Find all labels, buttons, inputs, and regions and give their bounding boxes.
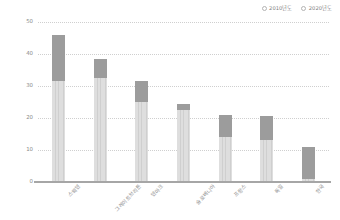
bar-slot[interactable] bbox=[163, 22, 205, 182]
bar-slot[interactable] bbox=[204, 22, 246, 182]
bar-slot[interactable] bbox=[287, 22, 329, 182]
stacked-bar[interactable] bbox=[219, 115, 232, 182]
x-axis-line bbox=[34, 181, 331, 183]
stacked-bar[interactable] bbox=[52, 35, 65, 182]
legend-label-2020: 2020년도 bbox=[309, 6, 332, 11]
bar-segment-2010[interactable] bbox=[177, 110, 190, 182]
bar-segment-2020[interactable] bbox=[260, 116, 273, 140]
bar-segment-2010[interactable] bbox=[94, 78, 107, 182]
stacked-bar[interactable] bbox=[94, 59, 107, 182]
bar-slot[interactable] bbox=[246, 22, 288, 182]
bar-segment-2020[interactable] bbox=[302, 147, 315, 179]
circle-outline-icon bbox=[301, 6, 306, 11]
bar-segment-2010[interactable] bbox=[260, 140, 273, 182]
circle-outline-icon bbox=[262, 6, 267, 11]
bar-group bbox=[38, 22, 329, 182]
plot-area: 01020304050 bbox=[38, 22, 329, 182]
stacked-bar-chart: 2010년도 2020년도 01020304050 스웨덴그레이트브리튼덴마크슬… bbox=[0, 0, 340, 220]
bar-slot[interactable] bbox=[38, 22, 80, 182]
stacked-bar[interactable] bbox=[135, 81, 148, 182]
x-axis-tick-label: 슬로베니아 bbox=[195, 184, 216, 205]
x-axis-tick-label: 프랑스 bbox=[233, 184, 247, 198]
chart-legend: 2010년도 2020년도 bbox=[262, 6, 332, 11]
bar-segment-2010[interactable] bbox=[219, 137, 232, 182]
y-axis-tick-label: 20 bbox=[26, 115, 33, 120]
bar-segment-2010[interactable] bbox=[135, 102, 148, 182]
x-axis-tick-label: 덴마크 bbox=[150, 184, 164, 198]
bar-segment-2020[interactable] bbox=[135, 81, 148, 102]
bar-slot[interactable] bbox=[80, 22, 122, 182]
y-axis-tick-label: 30 bbox=[26, 83, 33, 88]
bar-segment-2020[interactable] bbox=[219, 115, 232, 137]
x-axis-tick-label: 그레이트브리튼 bbox=[115, 184, 143, 212]
bar-segment-2010[interactable] bbox=[52, 81, 65, 182]
x-axis-tick-label: 스웨덴 bbox=[67, 184, 81, 198]
y-axis-tick-label: 0 bbox=[30, 179, 33, 184]
stacked-bar[interactable] bbox=[260, 116, 273, 182]
stacked-bar[interactable] bbox=[177, 104, 190, 182]
legend-item-2020[interactable]: 2020년도 bbox=[301, 6, 332, 11]
bar-segment-2020[interactable] bbox=[52, 35, 65, 81]
x-axis-tick-label: 독일 bbox=[274, 184, 285, 195]
y-axis-tick-label: 40 bbox=[26, 51, 33, 56]
legend-item-2010[interactable]: 2010년도 bbox=[262, 6, 293, 11]
legend-label-2010: 2010년도 bbox=[269, 6, 292, 11]
x-axis-labels: 스웨덴그레이트브리튼덴마크슬로베니아프랑스독일한국 bbox=[38, 184, 329, 220]
bar-slot[interactable] bbox=[121, 22, 163, 182]
y-axis-tick-label: 50 bbox=[26, 19, 33, 24]
x-axis-tick-label: 한국 bbox=[315, 184, 326, 195]
stacked-bar[interactable] bbox=[302, 147, 315, 182]
y-axis-tick-label: 10 bbox=[26, 147, 33, 152]
bar-segment-2020[interactable] bbox=[94, 59, 107, 78]
